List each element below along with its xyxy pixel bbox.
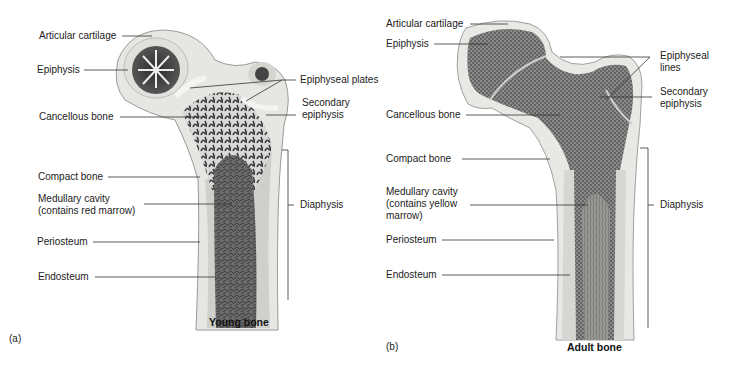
label-articular-cartilage: Articular cartilage — [39, 30, 116, 42]
young-bone-illustration — [0, 0, 370, 368]
label-periosteum: Periosteum — [386, 234, 437, 246]
label-medullary-cavity: Medullary cavity (contains red marrow) — [38, 193, 135, 217]
label-epiphysis: Epiphysis — [386, 38, 429, 50]
label-medullary-cavity: Medullary cavity (contains yellow marrow… — [386, 186, 458, 222]
label-compact-bone: Compact bone — [38, 171, 103, 183]
label-diaphysis: Diaphysis — [660, 199, 703, 211]
caption-young-bone: Young bone — [209, 316, 269, 328]
caption-adult-bone: Adult bone — [567, 341, 622, 353]
label-epiphyseal-plates: Epiphyseal plates — [300, 74, 378, 86]
label-diaphysis: Diaphysis — [300, 199, 343, 211]
label-cancellous-bone: Cancellous bone — [39, 111, 114, 123]
label-periosteum: Periosteum — [37, 236, 88, 248]
panel-label-a: (a) — [9, 333, 21, 344]
label-cancellous-bone: Cancellous bone — [386, 109, 461, 121]
label-endosteum: Endosteum — [386, 269, 437, 281]
figure-young-bone: Articular cartilage Epiphysis Cancellous… — [0, 0, 370, 368]
figure-adult-bone: Articular cartilage Epiphysis Cancellous… — [370, 0, 731, 368]
label-epiphyseal-lines: Epiphyseal lines — [660, 50, 709, 74]
label-secondary-epiphysis: Secondary epiphysis — [302, 97, 350, 121]
label-articular-cartilage: Articular cartilage — [386, 18, 463, 30]
label-endosteum: Endosteum — [38, 271, 89, 283]
label-compact-bone: Compact bone — [386, 153, 451, 165]
label-secondary-epiphysis: Secondary epiphysis — [660, 86, 708, 110]
label-epiphysis: Epiphysis — [37, 64, 80, 76]
panel-label-b: (b) — [386, 341, 398, 352]
